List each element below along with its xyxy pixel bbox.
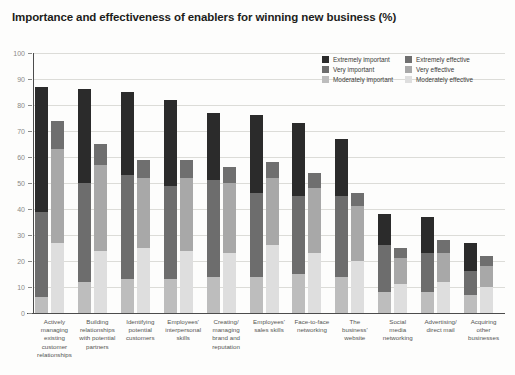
bar-segment: [164, 279, 177, 313]
x-axis-baseline: [27, 313, 505, 314]
legend-label: Very important: [333, 66, 374, 73]
bar-segment: [51, 149, 64, 243]
importance-bar[interactable]: [292, 123, 305, 313]
bar-segment: [437, 282, 450, 313]
legend-item-very_effective[interactable]: Very effective: [405, 66, 473, 73]
x-axis-label: Buildingrelationshipswith potentialpartn…: [77, 318, 117, 351]
page-title: Importance and effectiveness of enablers…: [12, 11, 396, 23]
bar-segment: [421, 217, 434, 253]
y-tick-mark: [28, 235, 32, 236]
y-tick-mark: [28, 261, 32, 262]
x-axis-label: Employees'interpersonalskills: [163, 318, 203, 343]
legend-item-moderately_effective[interactable]: Moderately effective: [405, 76, 473, 83]
bar-segment: [137, 178, 150, 248]
bar-segment: [266, 245, 279, 313]
y-axis-tick-label: 60: [0, 154, 25, 161]
bar-group[interactable]: [205, 53, 248, 313]
bar-segment: [51, 243, 64, 313]
bar-segment: [308, 188, 321, 253]
importance-bar[interactable]: [250, 115, 263, 313]
effectiveness-bar[interactable]: [223, 167, 236, 313]
importance-bar[interactable]: [207, 113, 220, 313]
bar-segment: [164, 100, 177, 186]
bar-group[interactable]: [419, 53, 462, 313]
effectiveness-bar[interactable]: [480, 256, 493, 313]
legend-swatch-icon: [322, 56, 329, 63]
x-axis-label: Acquiringotherbusinesses: [464, 318, 504, 343]
bar-group[interactable]: [376, 53, 419, 313]
bar-segment: [35, 87, 48, 212]
importance-bar[interactable]: [164, 100, 177, 313]
effectiveness-bar[interactable]: [180, 160, 193, 313]
legend-swatch-icon: [322, 66, 329, 73]
bar-segment: [180, 178, 193, 251]
y-tick-mark: [28, 131, 32, 132]
bar-segment: [207, 113, 220, 181]
x-axis-labels: Activelymanagingexistingcustomerrelation…: [33, 318, 505, 374]
bar-segment: [335, 277, 348, 313]
bar-segment: [180, 251, 193, 313]
effectiveness-bar[interactable]: [94, 144, 107, 313]
bar-segment: [137, 248, 150, 313]
importance-bar[interactable]: [121, 92, 134, 313]
bar-segment: [394, 284, 407, 313]
bar-segment: [421, 253, 434, 292]
y-axis-tick-label: 50: [0, 180, 25, 187]
importance-bar[interactable]: [421, 217, 434, 313]
y-axis-tick-label: 10: [0, 284, 25, 291]
legend-swatch-icon: [405, 56, 412, 63]
bar-group[interactable]: [333, 53, 376, 313]
bar-group[interactable]: [290, 53, 333, 313]
effectiveness-bar[interactable]: [51, 121, 64, 313]
bar-segment: [378, 292, 391, 313]
effectiveness-bar[interactable]: [308, 173, 321, 313]
bar-group[interactable]: [162, 53, 205, 313]
y-axis-tick-label: 30: [0, 232, 25, 239]
y-axis-tick-label: 80: [0, 102, 25, 109]
chart-legend: Extremely importantExtremely effectiveVe…: [322, 56, 473, 83]
legend-swatch-icon: [405, 66, 412, 73]
importance-bar[interactable]: [335, 139, 348, 313]
bar-segment: [464, 295, 477, 313]
y-axis-tick-label: 20: [0, 258, 25, 265]
effectiveness-bar[interactable]: [137, 160, 150, 313]
bar-segment: [35, 212, 48, 298]
bar-segment: [78, 183, 91, 282]
x-axis-label: Creating/managingbrand andreputation: [206, 318, 246, 351]
bar-segment: [464, 271, 477, 294]
bar-group[interactable]: [33, 53, 76, 313]
bar-segment: [308, 253, 321, 313]
legend-item-moderately_important[interactable]: Moderately important: [322, 76, 393, 83]
legend-item-very_important[interactable]: Very important: [322, 66, 393, 73]
legend-item-extremely_important[interactable]: Extremely important: [322, 56, 393, 63]
legend-swatch-icon: [322, 76, 329, 83]
bar-group[interactable]: [119, 53, 162, 313]
plot-area: [33, 53, 505, 313]
importance-bar[interactable]: [378, 214, 391, 313]
bar-segment: [180, 160, 193, 178]
effectiveness-bar[interactable]: [351, 193, 364, 313]
bar-segment: [250, 115, 263, 193]
bar-group[interactable]: [462, 53, 505, 313]
bar-segment: [223, 183, 236, 253]
bar-segment: [266, 162, 279, 178]
legend-label: Very effective: [416, 66, 454, 73]
chart-page: Importance and effectiveness of enablers…: [0, 0, 515, 375]
bar-group[interactable]: [248, 53, 291, 313]
legend-item-extremely_effective[interactable]: Extremely effective: [405, 56, 473, 63]
x-axis-label: Activelymanagingexistingcustomerrelation…: [34, 318, 74, 359]
effectiveness-bar[interactable]: [437, 240, 450, 313]
y-tick-mark: [28, 105, 32, 106]
bar-segment: [351, 206, 364, 261]
effectiveness-bar[interactable]: [266, 162, 279, 313]
bar-segment: [94, 165, 107, 251]
bar-segment: [78, 282, 91, 313]
bar-group[interactable]: [76, 53, 119, 313]
bar-segment: [464, 243, 477, 272]
importance-bar[interactable]: [464, 243, 477, 313]
bar-segment: [250, 193, 263, 276]
importance-bar[interactable]: [35, 87, 48, 313]
effectiveness-bar[interactable]: [394, 248, 407, 313]
importance-bar[interactable]: [78, 89, 91, 313]
bar-segment: [250, 277, 263, 313]
